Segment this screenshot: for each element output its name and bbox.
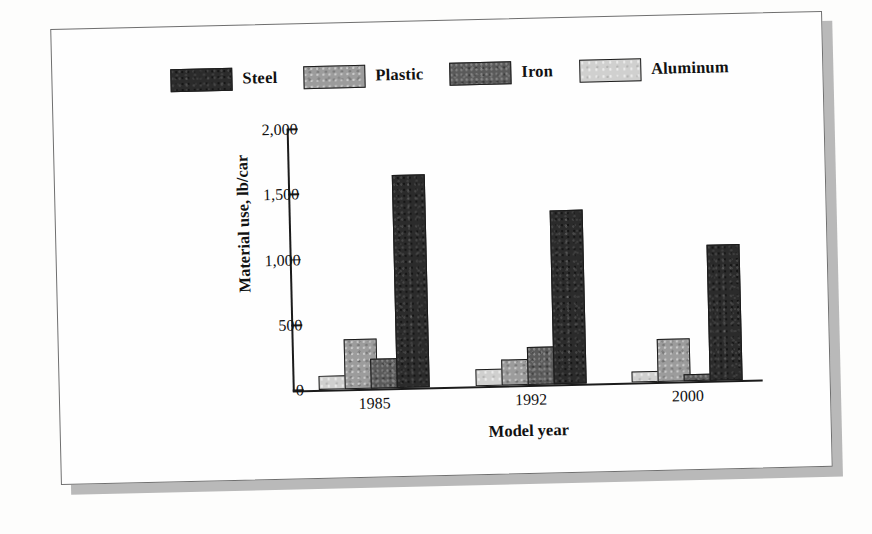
legend-label-iron: Iron xyxy=(521,61,553,82)
legend-item-steel: Steel xyxy=(170,66,303,92)
chart-legend: SteelPlasticIronAluminum xyxy=(170,51,771,95)
bar-steel-2000 xyxy=(707,244,743,381)
y-tick-row: 500 xyxy=(208,325,302,327)
y-tick-row: 1,000 xyxy=(207,260,301,262)
legend-swatch-steel xyxy=(170,67,233,91)
x-tick-label-1992: 1992 xyxy=(481,390,581,410)
bars-layer xyxy=(287,119,763,391)
scanned-figure-background: SteelPlasticIronAluminum Material use, l… xyxy=(0,0,872,534)
y-tick-row: 0 xyxy=(210,390,304,392)
legend-swatch-aluminum xyxy=(579,58,642,82)
legend-swatch-iron xyxy=(449,61,512,85)
legend-item-aluminum: Aluminum xyxy=(579,55,755,82)
figure-skew-wrapper: SteelPlasticIronAluminum Material use, l… xyxy=(0,0,872,534)
legend-item-iron: Iron xyxy=(449,59,579,85)
legend-label-plastic: Plastic xyxy=(375,64,424,85)
y-tick-row: 2,000 xyxy=(204,129,298,131)
y-axis-title: Material use, lb/car xyxy=(231,113,256,333)
x-tick-label-2000: 2000 xyxy=(638,386,738,406)
x-axis-title: Model year xyxy=(294,415,764,446)
legend-swatch-plastic xyxy=(303,64,366,88)
legend-label-aluminum: Aluminum xyxy=(651,57,729,79)
y-tick-row: 1,500 xyxy=(205,195,299,197)
plot-area: Material use, lb/car 05001,0001,5002,000… xyxy=(203,109,790,423)
figure-page: SteelPlasticIronAluminum Material use, l… xyxy=(50,11,833,485)
bar-steel-1985 xyxy=(392,175,430,388)
x-tick-label-1985: 1985 xyxy=(324,393,424,413)
legend-label-steel: Steel xyxy=(242,68,277,89)
legend-item-plastic: Plastic xyxy=(303,62,450,88)
bar-steel-1992 xyxy=(549,210,586,384)
